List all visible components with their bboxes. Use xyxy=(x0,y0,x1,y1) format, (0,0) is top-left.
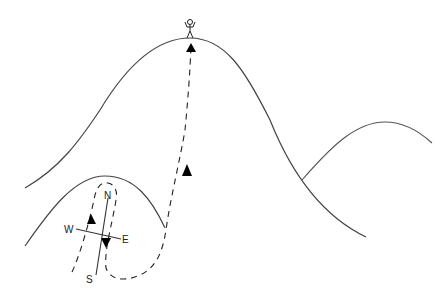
arrow-down-icon xyxy=(101,238,111,248)
arrow-up-icon xyxy=(182,164,192,176)
compass-west-label: W xyxy=(64,224,74,235)
compass-ns-axis xyxy=(96,198,108,275)
right-hill-curve xyxy=(302,122,432,180)
arrow-up-icon xyxy=(186,43,196,52)
main-hill-curve xyxy=(25,38,366,237)
hiker-stick-figure-icon xyxy=(185,20,195,39)
local-hill-curve xyxy=(25,176,165,246)
compass-south-label: S xyxy=(86,274,93,285)
dashed-path-left xyxy=(72,48,191,279)
arrow-up-icon xyxy=(87,214,96,224)
hill-climbing-diagram: N S W E xyxy=(0,0,442,297)
compass-east-label: E xyxy=(122,234,129,245)
compass-we-axis xyxy=(76,229,121,239)
compass-north-label: N xyxy=(104,190,111,201)
